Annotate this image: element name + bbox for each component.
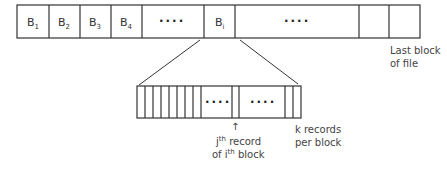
records-ellipsis-1: ···· <box>205 95 231 109</box>
block-2-label: B2 <box>58 16 70 31</box>
block-4-label: B4 <box>120 16 133 31</box>
records-ellipsis-2: ···· <box>250 95 276 109</box>
jth-record-label: jth record <box>215 135 261 147</box>
block-i-label: Bi <box>215 16 225 31</box>
last-block-label-line2: of file <box>390 58 418 69</box>
ellipsis-2: ···· <box>284 14 310 28</box>
up-arrow-icon: ↑ <box>231 121 239 132</box>
ellipsis-1: ···· <box>159 14 185 28</box>
k-records-label-line1: k records <box>295 124 341 135</box>
block-1-label: B1 <box>27 16 39 31</box>
ith-block-label: of ith block <box>212 148 265 160</box>
last-block-label-line1: Last block <box>390 45 441 56</box>
file-structure-diagram: B1 B2 B3 B4 ···· Bi ···· Last block of f… <box>0 0 447 172</box>
k-records-label-line2: per block <box>295 137 342 148</box>
expansion-lines <box>139 40 298 85</box>
block-3-label: B3 <box>89 16 101 31</box>
